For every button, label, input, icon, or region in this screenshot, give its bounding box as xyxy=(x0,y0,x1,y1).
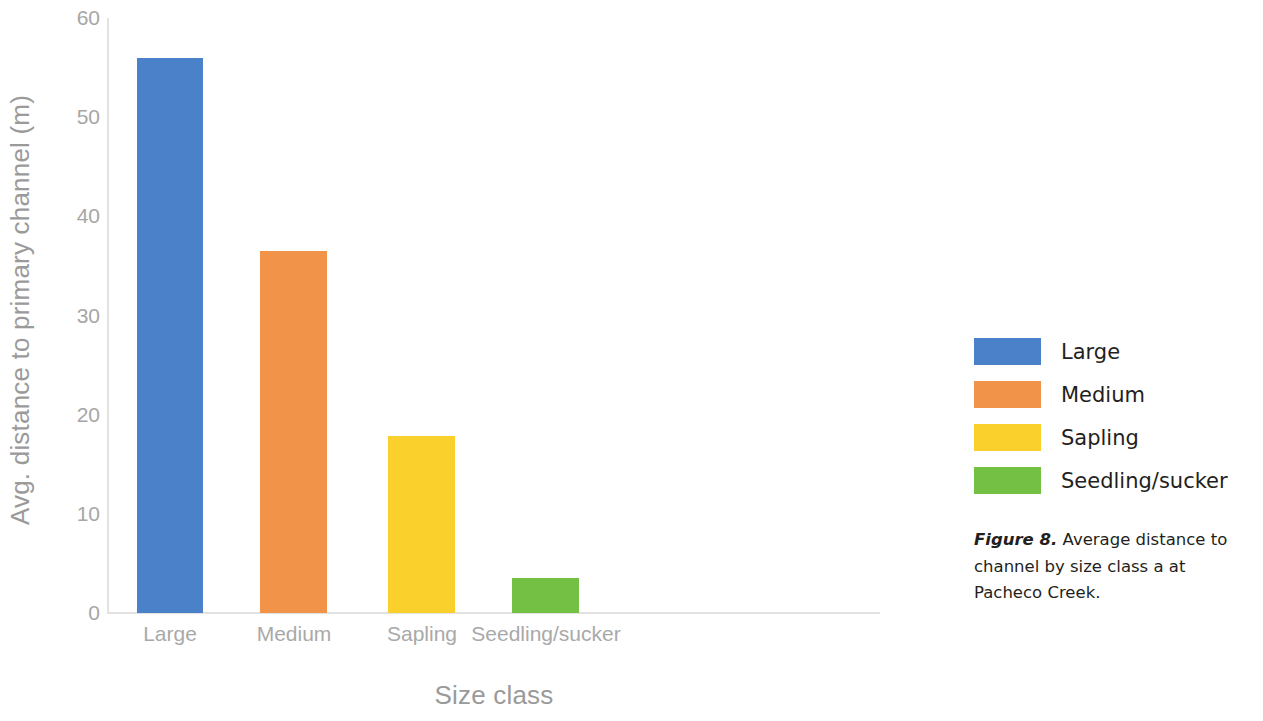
plot-area xyxy=(108,18,880,613)
legend-label-sapling: Sapling xyxy=(1061,426,1139,450)
y-tick-10: 10 xyxy=(44,502,100,526)
y-tick-40: 40 xyxy=(44,204,100,228)
legend-item-medium[interactable]: Medium xyxy=(974,373,1254,416)
legend-swatch-icon-seedling-sucker xyxy=(974,467,1041,494)
y-axis-tick-labels: 60 50 40 30 20 10 0 xyxy=(44,0,100,640)
figure-caption: Figure 8. Average distance to channel by… xyxy=(974,527,1236,607)
legend-item-sapling[interactable]: Sapling xyxy=(974,416,1254,459)
y-tick-50: 50 xyxy=(44,105,100,129)
legend-swatch-icon-medium xyxy=(974,381,1041,408)
x-axis-title: Size class xyxy=(108,680,880,711)
x-tick-seedling-sucker: Seedling/sucker xyxy=(471,622,620,646)
legend-swatch-icon-sapling xyxy=(974,424,1041,451)
x-tick-sapling: Sapling xyxy=(387,622,457,646)
x-tick-large: Large xyxy=(143,622,197,646)
legend-item-seedling-sucker[interactable]: Seedling/sucker xyxy=(974,459,1254,502)
legend-item-large[interactable]: Large xyxy=(974,330,1254,373)
bar-seedling-sucker[interactable] xyxy=(512,578,579,613)
bar-chart-figure: Avg. distance to primary channel (m) 60 … xyxy=(0,0,900,721)
legend-label-seedling-sucker: Seedling/sucker xyxy=(1061,469,1228,493)
y-tick-0: 0 xyxy=(44,601,100,625)
legend-label-large: Large xyxy=(1061,340,1120,364)
legend-swatch-icon-large xyxy=(974,338,1041,365)
chart-legend: Large Medium Sapling Seedling/sucker xyxy=(974,330,1254,502)
figure-caption-label: Figure 8. xyxy=(974,530,1057,549)
bar-sapling[interactable] xyxy=(388,436,455,613)
y-tick-60: 60 xyxy=(44,6,100,30)
bar-medium[interactable] xyxy=(260,251,327,613)
y-tick-20: 20 xyxy=(44,403,100,427)
x-tick-medium: Medium xyxy=(257,622,332,646)
x-axis-tick-labels: Large Medium Sapling Seedling/sucker xyxy=(108,622,880,662)
legend-label-medium: Medium xyxy=(1061,383,1145,407)
y-axis-title: Avg. distance to primary channel (m) xyxy=(0,0,40,620)
y-tick-30: 30 xyxy=(44,304,100,328)
bar-large[interactable] xyxy=(137,58,203,613)
